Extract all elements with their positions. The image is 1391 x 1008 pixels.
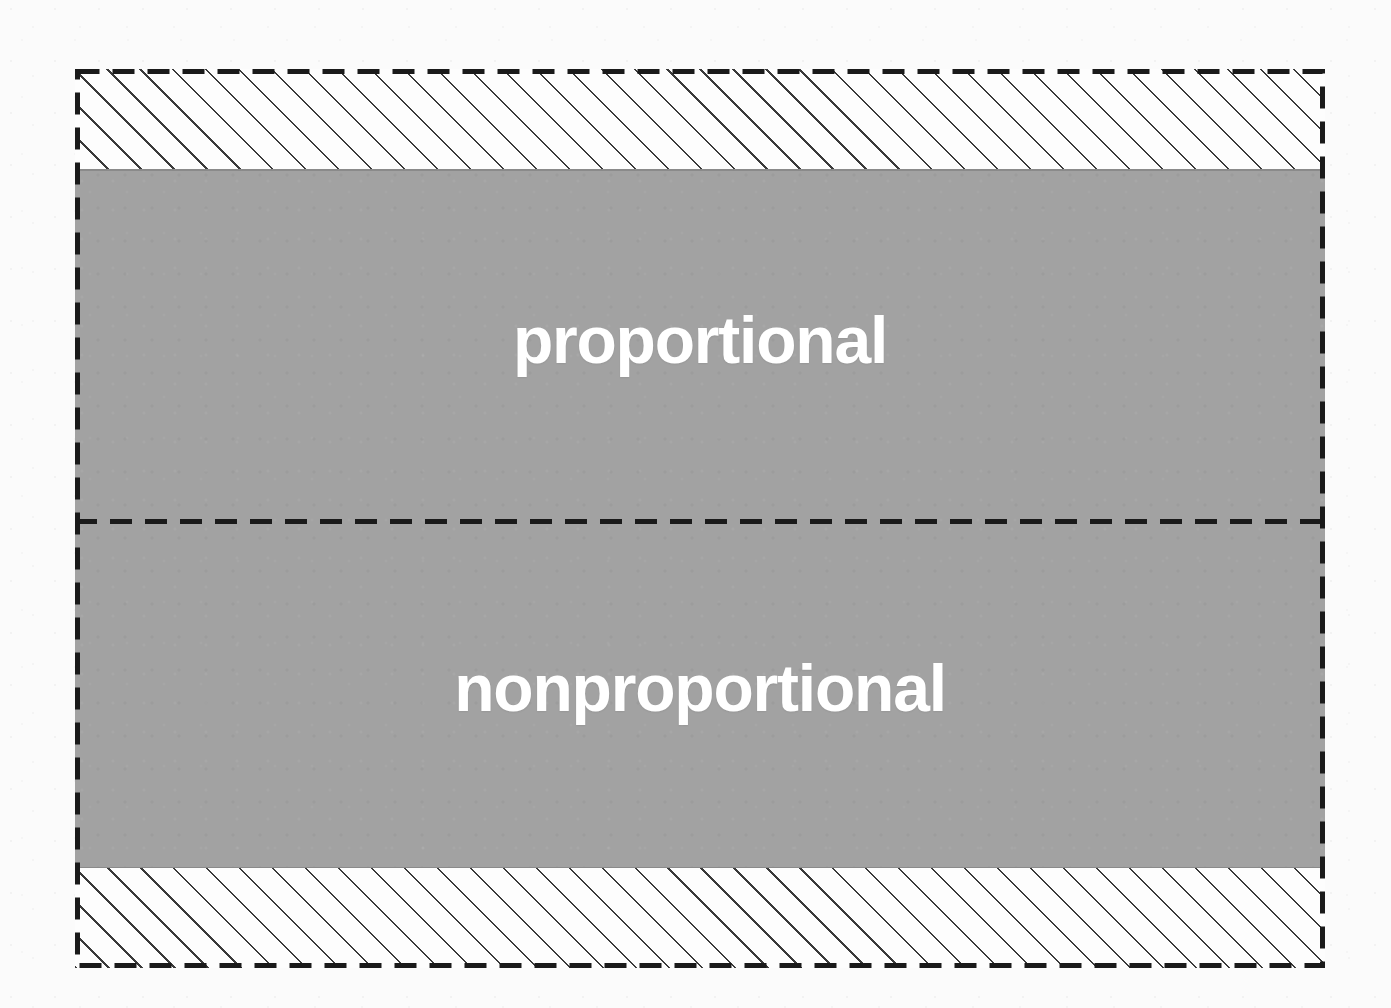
body-top-edge-rule: [75, 169, 1325, 171]
diagram-canvas: proportional nonproportional: [0, 0, 1391, 1008]
region-label-proportional: proportional: [75, 307, 1325, 373]
region-label-nonproportional: nonproportional: [75, 655, 1325, 721]
hatched-region-top: [75, 69, 1325, 170]
diagram-region: proportional nonproportional: [75, 69, 1325, 968]
hatched-region-bottom: [75, 868, 1325, 968]
solid-grey-body: [75, 170, 1325, 868]
